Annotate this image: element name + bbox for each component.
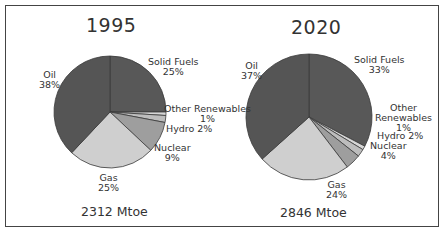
label-1995-oil: Oil38% <box>39 70 60 90</box>
pie-1995-title: 1995 <box>86 14 136 36</box>
label-2020-gas: Gas24% <box>326 180 347 200</box>
label-1995-gas: Gas25% <box>98 173 119 193</box>
label-2020-solid-fuels: Solid Fuels33% <box>354 55 405 75</box>
label-2020-oil: Oil37% <box>241 61 262 81</box>
label-2020-other-renewables: OtherRenewables1% <box>375 103 432 133</box>
pie-2020-total: 2846 Mtoe <box>280 205 347 220</box>
label-1995-other-renewables: Other Renewables1% <box>164 104 251 124</box>
label-1995-hydro: Hydro 2% <box>166 124 212 134</box>
label-1995-nuclear: Nuclear9% <box>154 143 191 163</box>
pie-1995-total: 2312 Mtoe <box>81 204 148 219</box>
pie-2020-title: 2020 <box>291 16 341 38</box>
label-2020-nuclear: Nuclear4% <box>370 141 407 161</box>
label-1995-solid-fuels: Solid Fuels25% <box>148 57 199 77</box>
